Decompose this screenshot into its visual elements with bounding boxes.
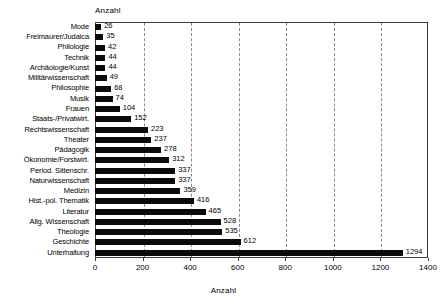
bar-value-label: 42: [108, 42, 116, 52]
bar: [95, 127, 148, 133]
x-tick-label: 1200: [372, 263, 390, 272]
bar-value-label: 612: [244, 236, 257, 246]
bar-value-label: 312: [172, 154, 185, 164]
category-label: Allg. Wissenschaft: [0, 217, 89, 227]
bar-value-label: 359: [183, 185, 196, 195]
bar-value-label: 44: [108, 52, 116, 62]
bar-chart: Anzahl ModeFreimaurer/JudaicaPhilologieT…: [0, 0, 447, 307]
bar-row: 26: [95, 22, 428, 32]
category-label: Period. Sittenschr.: [0, 166, 89, 176]
x-tick-mark: [428, 258, 429, 261]
bar: [95, 239, 241, 245]
category-label: Medizin: [0, 186, 89, 196]
bar-row: 44: [95, 63, 428, 73]
category-label: Geschichte: [0, 237, 89, 247]
bar: [95, 116, 131, 122]
bar-value-label: 49: [110, 72, 118, 82]
bar: [95, 147, 161, 153]
category-label: Freimaurer/Judaica: [0, 32, 89, 42]
bar-row: 49: [95, 73, 428, 83]
bar-row: 465: [95, 207, 428, 217]
bar: [95, 168, 175, 174]
bar: [95, 65, 105, 71]
category-label: Naturwissenschaft: [0, 176, 89, 186]
bar-value-label: 337: [178, 175, 191, 185]
bar: [95, 157, 169, 163]
bar: [95, 209, 206, 215]
bar: [95, 86, 111, 92]
x-tick-mark: [380, 258, 381, 261]
bar-row: 237: [95, 135, 428, 145]
category-label: Unterhaltung: [0, 248, 89, 258]
bar: [95, 75, 107, 81]
bar-row: 528: [95, 217, 428, 227]
x-tick-label: 1400: [419, 263, 437, 272]
bar-value-label: 68: [114, 83, 122, 93]
bar-value-label: 416: [197, 195, 210, 205]
bar-row: 535: [95, 227, 428, 237]
category-label: Theologie: [0, 227, 89, 237]
bar-value-label: 465: [209, 206, 222, 216]
category-axis-labels: ModeFreimaurer/JudaicaPhilologieTechnikA…: [0, 22, 92, 258]
x-tick-mark: [238, 258, 239, 261]
category-label: Philosophie: [0, 83, 89, 93]
top-axis-label: Anzahl: [95, 6, 121, 15]
category-label: Hist.-pol. Thematik: [0, 196, 89, 206]
bar-row: 35: [95, 32, 428, 42]
bar-row: 74: [95, 94, 428, 104]
bar-series: 2635424444496874104152223237278312337337…: [95, 22, 428, 258]
category-label: Archäologie/Kunst: [0, 63, 89, 73]
bar-row: 68: [95, 84, 428, 94]
x-tick-label: 1000: [324, 263, 342, 272]
bar-row: 44: [95, 53, 428, 63]
x-tick-mark: [285, 258, 286, 261]
bar: [95, 24, 101, 30]
bar-row: 337: [95, 166, 428, 176]
bar-row: 416: [95, 196, 428, 206]
x-tick-mark: [95, 258, 96, 261]
category-label: Pädagogik: [0, 145, 89, 155]
bar: [95, 188, 180, 194]
bar: [95, 55, 105, 61]
bar-row: 42: [95, 43, 428, 53]
bar-value-label: 528: [224, 216, 237, 226]
bar-row: 152: [95, 114, 428, 124]
bar: [95, 106, 120, 112]
bar: [95, 229, 222, 235]
bar-row: 278: [95, 145, 428, 155]
category-label: Literatur: [0, 207, 89, 217]
category-label: Mode: [0, 22, 89, 32]
bar-value-label: 337: [178, 165, 191, 175]
bar-value-label: 74: [116, 93, 124, 103]
category-label: Ökonomie/Forstwirt.: [0, 155, 89, 165]
bar: [95, 45, 105, 51]
bar: [95, 178, 175, 184]
category-label: Frauen: [0, 104, 89, 114]
x-tick-mark: [333, 258, 334, 261]
category-label: Philologie: [0, 42, 89, 52]
bar: [95, 219, 221, 225]
category-label: Theater: [0, 135, 89, 145]
bar-row: 612: [95, 237, 428, 247]
bar-value-label: 278: [164, 144, 177, 154]
category-label: Staats-/Privatwirt.: [0, 114, 89, 124]
bar-row: 1294: [95, 248, 428, 258]
bar-row: 312: [95, 155, 428, 165]
bar: [95, 137, 151, 143]
bar-value-label: 26: [104, 21, 112, 31]
bar-row: 223: [95, 125, 428, 135]
bar-value-label: 44: [108, 62, 116, 72]
bar-value-label: 1294: [406, 247, 423, 257]
x-tick-label: 200: [136, 263, 149, 272]
bar-value-label: 35: [106, 31, 114, 41]
bar-row: 359: [95, 186, 428, 196]
bar-value-label: 152: [134, 113, 147, 123]
bar-value-label: 535: [225, 226, 238, 236]
bar-row: 337: [95, 176, 428, 186]
bar: [95, 96, 113, 102]
category-label: Rechtswissenschaft: [0, 125, 89, 135]
bar: [95, 198, 194, 204]
category-label: Musik: [0, 94, 89, 104]
bar: [95, 250, 403, 256]
x-tick-label: 400: [183, 263, 196, 272]
